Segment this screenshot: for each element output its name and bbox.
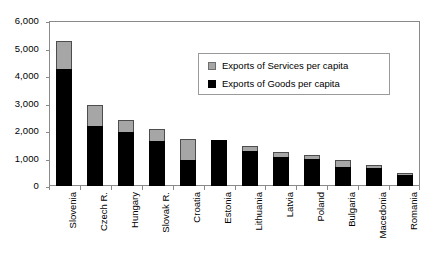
bar-stack: [304, 21, 320, 186]
bar-stack: [211, 21, 227, 186]
bar-stack: [56, 21, 72, 186]
bar-segment-services: [335, 160, 351, 167]
bar-segment-services: [180, 139, 196, 160]
x-axis-category-label: Romania: [409, 192, 419, 257]
y-axis-tick-label: 6,000: [0, 16, 44, 26]
x-axis-category-label: Bulgaria: [347, 192, 357, 257]
x-axis-category-label: Czech R.: [99, 192, 109, 257]
y-axis-tick-label: 0: [0, 181, 44, 191]
bar-stack: [149, 21, 165, 186]
bar-stack: [118, 21, 134, 186]
legend-swatch-services-icon: [208, 62, 216, 70]
bar-segment-services: [87, 105, 103, 125]
legend-label-goods: Exports of Goods per capita: [222, 79, 340, 89]
bar-segment-services: [118, 120, 134, 132]
x-axis-category-label: Poland: [316, 192, 326, 257]
x-axis-category-label: Slovak R.: [161, 192, 171, 257]
x-axis-category-label: Macedonia: [378, 192, 388, 257]
legend-item-goods: Exports of Goods per capita: [208, 78, 340, 90]
bar-segment-goods: [211, 140, 227, 186]
y-axis-tick-label: 4,000: [0, 71, 44, 81]
chart-legend: Exports of Services per capita Exports o…: [198, 53, 390, 95]
y-axis-tick-label: 3,000: [0, 99, 44, 109]
bar-stack: [87, 21, 103, 186]
bar-stack: [366, 21, 382, 186]
x-axis-category-label: Croatia: [192, 192, 202, 257]
bar-segment-goods: [366, 168, 382, 186]
bar-segment-goods: [242, 151, 258, 186]
y-axis-labels: 6,0005,0004,0003,0002,0001,0000: [0, 0, 44, 257]
bar-segment-services: [56, 41, 72, 69]
y-axis-tick-label: 5,000: [0, 44, 44, 54]
bar-stack: [335, 21, 351, 186]
legend-swatch-goods-icon: [208, 80, 216, 88]
x-axis-category-label: Hungary: [130, 192, 140, 257]
x-axis-category-label: Latvia: [285, 192, 295, 257]
bar-segment-services: [149, 129, 165, 141]
legend-item-services: Exports of Services per capita: [208, 60, 348, 72]
x-axis-category-label: Estonia: [223, 192, 233, 257]
bar-segment-goods: [304, 159, 320, 186]
y-axis-tick-label: 1,000: [0, 154, 44, 164]
bar-segment-goods: [56, 69, 72, 186]
bar-segment-goods: [118, 132, 134, 186]
x-axis-labels: SloveniaCzech R.HungarySlovak R.CroatiaE…: [49, 190, 420, 257]
x-axis-category-label: Slovenia: [68, 192, 78, 257]
bars-layer: [49, 21, 420, 186]
bar-stack: [242, 21, 258, 186]
y-axis-tick-label: 2,000: [0, 126, 44, 136]
x-axis-category-label: Lithuania: [254, 192, 264, 257]
bar-segment-goods: [273, 157, 289, 186]
bar-stack: [397, 21, 413, 186]
bar-segment-goods: [149, 141, 165, 186]
bar-segment-goods: [180, 160, 196, 186]
bar-segment-goods: [87, 126, 103, 187]
bar-segment-goods: [335, 167, 351, 186]
bar-stack: [273, 21, 289, 186]
exports-per-capita-bar-chart: 6,0005,0004,0003,0002,0001,0000 Slovenia…: [0, 0, 441, 257]
bar-stack: [180, 21, 196, 186]
legend-label-services: Exports of Services per capita: [222, 61, 348, 71]
bar-segment-goods: [397, 175, 413, 186]
